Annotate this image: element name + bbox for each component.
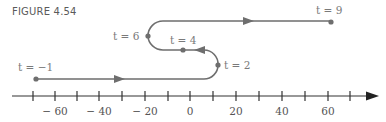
axis-arrow-icon — [366, 92, 379, 101]
number-line — [12, 91, 372, 101]
point-t-6 — [145, 33, 150, 38]
label-t-2: t = 2 — [224, 59, 250, 71]
tick-labels: − 60 − 40 − 20 0 20 40 60 — [42, 105, 334, 117]
label-t-neg1: t = −1 — [18, 61, 53, 73]
tick-label: − 20 — [132, 105, 158, 117]
tick-label: 40 — [275, 105, 288, 117]
tick-label: 0 — [187, 105, 194, 117]
arrow-right-icon — [243, 17, 254, 25]
arrow-left-icon — [194, 46, 205, 54]
motion-diagram: t = −1 t = 2 t = 4 t = 6 t = 9 − 60 − 40… — [0, 0, 386, 122]
position-points — [33, 19, 333, 81]
label-t-9: t = 9 — [316, 4, 342, 16]
tick-label: 20 — [229, 105, 242, 117]
arrow-right-icon — [114, 75, 125, 83]
tick-label: − 40 — [86, 105, 112, 117]
label-t-4: t = 4 — [170, 34, 197, 46]
point-t-2 — [215, 62, 220, 67]
tick-label: 60 — [321, 105, 334, 117]
tick-label: − 60 — [42, 105, 68, 117]
point-t-9 — [328, 19, 333, 24]
point-t-4 — [180, 47, 185, 52]
label-t-6: t = 6 — [113, 30, 140, 42]
point-t-neg1 — [33, 76, 38, 81]
